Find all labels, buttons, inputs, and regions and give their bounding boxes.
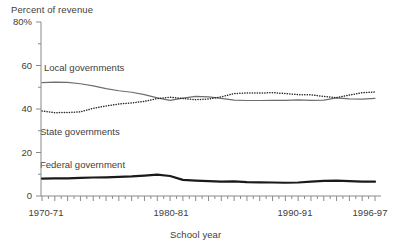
axes-group — [36, 22, 381, 201]
series-group — [42, 82, 375, 183]
series-line-local-governments — [42, 82, 375, 100]
series-line-state-governments — [42, 92, 375, 113]
plot-area — [0, 0, 408, 247]
chart-figure: Percent of revenue School year 80% 60 40… — [0, 0, 408, 247]
series-line-federal-government — [42, 175, 375, 183]
